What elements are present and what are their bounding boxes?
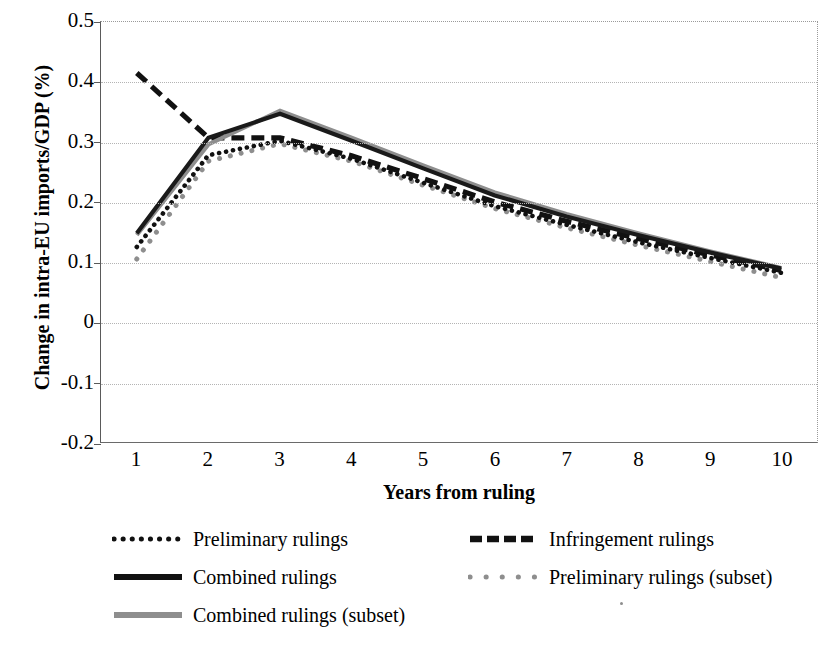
y-tick-mark [94, 22, 101, 23]
legend-label: Infringement rulings [549, 529, 714, 549]
x-tick-label: 10 [758, 449, 806, 470]
y-tick-label: 0.5 [32, 10, 94, 31]
gridline [101, 203, 817, 204]
y-tick-mark [94, 142, 101, 143]
legend-item[interactable]: Infringement rulings [468, 524, 714, 554]
y-tick-label: -0.1 [32, 372, 94, 393]
y-tick-mark [94, 383, 101, 384]
y-tick-label: 0.3 [32, 131, 94, 152]
y-tick-label: 0 [32, 311, 94, 332]
y-axis-tick-labels: 0.50.40.30.20.10-0.1-0.2 [28, 0, 94, 647]
gridline [101, 82, 817, 83]
gridline [101, 143, 817, 144]
gridline [101, 384, 817, 385]
y-tick-label: -0.2 [32, 432, 94, 453]
y-tick-mark [94, 202, 101, 203]
x-tick-label: 1 [112, 449, 160, 470]
y-tick-mark [94, 444, 101, 445]
y-tick-mark [94, 82, 101, 83]
legend-item[interactable]: Combined rulings [112, 562, 337, 592]
plot-area [100, 21, 818, 443]
legend-label: Preliminary rulings (subset) [549, 567, 772, 587]
x-axis-tick-labels: 12345678910 [100, 449, 818, 481]
y-tick-mark [94, 263, 101, 264]
legend-item[interactable]: Preliminary rulings (subset) [468, 562, 772, 592]
series-line [137, 141, 781, 273]
x-tick-label: 7 [543, 449, 591, 470]
x-tick-label: 3 [256, 449, 304, 470]
gridline [101, 323, 817, 324]
legend-item[interactable]: Combined rulings (subset) [112, 600, 405, 630]
x-tick-label: 4 [327, 449, 375, 470]
dotted-line-marker [112, 532, 184, 546]
y-tick-mark [94, 323, 101, 324]
legend-label: Combined rulings (subset) [193, 605, 405, 625]
stray-dot-artifact [620, 602, 623, 605]
y-tick-label: 0.2 [32, 191, 94, 212]
gridline [101, 263, 817, 264]
series-line [137, 144, 781, 278]
x-tick-label: 2 [184, 449, 232, 470]
x-tick-label: 8 [615, 449, 663, 470]
x-axis-title: Years from ruling [100, 481, 818, 504]
x-tick-label: 9 [686, 449, 734, 470]
sparse-gray-dots-marker [468, 570, 540, 584]
legend-item[interactable]: Preliminary rulings [112, 524, 348, 554]
series-line [137, 73, 781, 270]
solid-black-line-marker [112, 570, 184, 584]
y-tick-label: 0.1 [32, 251, 94, 272]
chart-legend: Preliminary rulingsInfringement rulingsC… [112, 524, 812, 636]
chart-figure: Change in intra-EU imports/GDP (%) 0.50.… [0, 0, 833, 647]
solid-gray-line-marker [112, 608, 184, 622]
x-tick-label: 6 [471, 449, 519, 470]
legend-label: Combined rulings [193, 567, 337, 587]
dashed-line-marker [468, 532, 540, 546]
x-tick-label: 5 [399, 449, 447, 470]
y-tick-label: 0.4 [32, 70, 94, 91]
data-series-canvas [101, 22, 817, 442]
legend-label: Preliminary rulings [193, 529, 348, 549]
